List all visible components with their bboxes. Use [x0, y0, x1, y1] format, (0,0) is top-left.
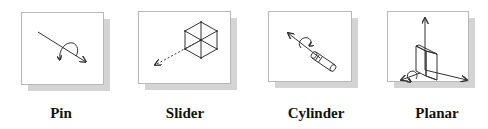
cylinder-label: Cylinder [281, 104, 351, 122]
slider-label: Slider [159, 104, 211, 122]
pin-tile [21, 12, 104, 85]
planar-label: Planar [409, 104, 465, 122]
slider-tile [138, 11, 231, 84]
planar-tile [387, 11, 469, 82]
joint-types-figure: Pin Slider Cylinder Planar [0, 0, 488, 129]
pin-label: Pin [41, 104, 81, 122]
cylinder-tile [268, 11, 352, 82]
